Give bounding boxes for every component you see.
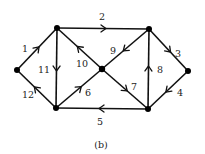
edge-label: 3 <box>175 48 181 59</box>
edge-label: 11 <box>38 64 50 75</box>
graph-node <box>185 68 191 74</box>
graph-node <box>54 25 60 31</box>
edge-label: 4 <box>177 87 183 98</box>
figure-caption: (b) <box>94 139 108 150</box>
graph-node <box>99 66 105 72</box>
edge-11 <box>56 28 57 108</box>
edge-2 <box>57 28 149 29</box>
edge-label: 6 <box>85 87 91 98</box>
edge-label: 10 <box>76 58 88 69</box>
edge-label: 8 <box>157 64 163 75</box>
edge-label: 1 <box>22 43 28 54</box>
edge-5 <box>56 108 148 109</box>
edge-label: 7 <box>131 81 137 92</box>
edge-label: 2 <box>99 11 105 22</box>
edge-8 <box>148 29 149 109</box>
graph-node <box>146 26 152 32</box>
graph-node <box>53 105 59 111</box>
edge-3 <box>149 29 188 71</box>
edge-6 <box>56 69 102 108</box>
graph-node <box>145 106 151 112</box>
graph-node <box>14 67 20 73</box>
directed-graph-diagram: 123456789101112 (b) <box>0 0 205 154</box>
edge-label: 12 <box>22 89 34 100</box>
edge-label: 9 <box>110 45 116 56</box>
edge-7 <box>102 69 148 109</box>
edge-label: 5 <box>97 116 103 127</box>
